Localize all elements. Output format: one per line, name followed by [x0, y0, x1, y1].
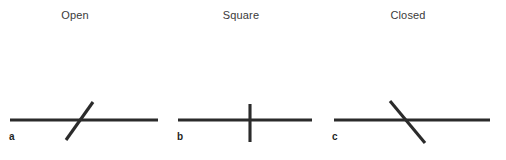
panel-c-crossing-line	[390, 101, 425, 143]
panel-b-letter: b	[177, 131, 183, 142]
panel-a-sketch	[0, 0, 168, 160]
panel-b-sketch	[168, 0, 330, 160]
panel-a-letter: a	[9, 131, 15, 142]
panel-a: Open a	[0, 0, 168, 160]
panel-b: Square b	[168, 0, 330, 160]
panel-c-letter: c	[332, 131, 338, 142]
fracture-intersection-figure: Open a Square b Closed c	[0, 0, 506, 160]
panel-c: Closed c	[330, 0, 506, 160]
panel-c-sketch	[330, 0, 506, 160]
